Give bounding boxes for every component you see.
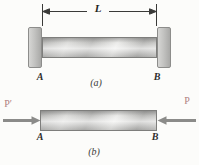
end-label-A-part-b: A <box>32 132 48 142</box>
caption-part-b: (b) <box>78 147 110 157</box>
rod-part-b <box>40 110 157 131</box>
end-label-A-part-a: A <box>32 72 48 82</box>
dimension-arrowhead-left <box>43 9 50 14</box>
force-arrow-P <box>158 116 197 125</box>
force-label-P: P <box>180 96 194 106</box>
caption-part-a: (a) <box>80 78 112 88</box>
force-arrow-P-prime <box>3 116 41 125</box>
end-label-B-part-a: B <box>149 72 165 82</box>
dimension-label-L: L <box>88 3 108 14</box>
force-label-P-prime: P′ <box>1 99 15 109</box>
dimension-arrowhead-right <box>150 9 157 14</box>
figure-rod-diagram: L A B (a) P′ P A B (b) <box>0 0 199 165</box>
end-label-B-part-b: B <box>147 132 163 142</box>
